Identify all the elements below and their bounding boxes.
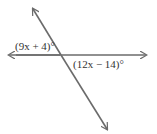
angle-label-upper-left: (9x + 4)°	[15, 41, 55, 52]
angle-label-lower-right: (12x − 14)°	[73, 59, 124, 70]
diagram-canvas: (9x + 4)° (12x − 14)°	[0, 0, 157, 134]
